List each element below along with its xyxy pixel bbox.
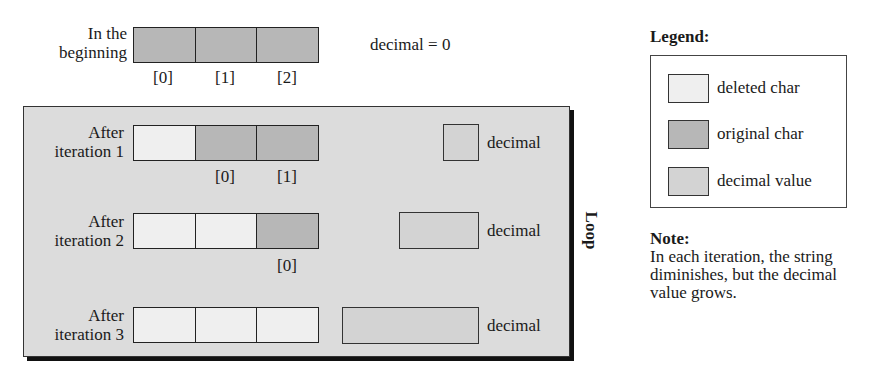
original-char-swatch: [668, 120, 709, 149]
iteration-label-line1: After: [24, 306, 124, 325]
initial-label-line1: In the: [40, 24, 127, 43]
original-char-cell: [134, 28, 195, 62]
deleted-char-cell: [134, 214, 195, 248]
iteration-label-line2: iteration 2: [24, 231, 124, 250]
legend-box: deleted char original char decimal value: [650, 55, 847, 208]
note-line: diminishes, but the decimal: [650, 266, 837, 284]
decimal-value-box: [342, 307, 479, 344]
iteration-1-label: After iteration 1: [24, 123, 124, 161]
iteration-3-string-array: [133, 307, 319, 343]
iteration-label-line1: After: [24, 123, 124, 142]
decimal-label: decimal: [487, 316, 541, 335]
deleted-char-cell: [134, 126, 195, 160]
deleted-char-cell: [195, 308, 257, 342]
note-body: In each iteration, the string diminishes…: [650, 248, 837, 302]
index-label: [2]: [267, 68, 307, 88]
iteration-label-line1: After: [24, 212, 124, 231]
iteration-label-line2: iteration 1: [24, 142, 124, 161]
decimal-value-box: [399, 212, 479, 249]
deleted-char-cell: [134, 308, 195, 342]
note-line: In each iteration, the string: [650, 248, 837, 266]
iteration-label-line2: iteration 3: [24, 325, 124, 344]
deleted-char-cell: [256, 308, 318, 342]
iteration-1-string-array: [133, 125, 319, 161]
decimal-label: decimal: [487, 221, 541, 240]
index-label: [1]: [205, 68, 245, 88]
iteration-2-string-array: [133, 213, 319, 249]
legend-item-label: decimal value: [717, 171, 812, 191]
note-title: Note:: [650, 229, 690, 248]
legend-item-label: deleted char: [717, 78, 800, 98]
initial-string-array: [133, 27, 319, 63]
decimal-label: decimal: [487, 133, 541, 152]
initial-decimal-text: decimal = 0: [370, 35, 450, 54]
legend-title: Legend:: [650, 27, 710, 46]
original-char-cell: [256, 126, 318, 160]
legend-item-label: original char: [717, 124, 803, 144]
initial-label: In the beginning: [40, 24, 127, 62]
note-line: value grows.: [650, 284, 837, 302]
original-char-cell: [256, 28, 318, 62]
index-label: [0]: [267, 256, 307, 276]
index-label: [0]: [205, 167, 245, 187]
iteration-2-label: After iteration 2: [24, 212, 124, 250]
original-char-cell: [195, 126, 257, 160]
decimal-value-box: [443, 124, 479, 161]
loop-label: Loop: [582, 211, 601, 251]
deleted-char-cell: [195, 214, 257, 248]
decimal-value-swatch: [668, 167, 709, 196]
iteration-3-label: After iteration 3: [24, 306, 124, 344]
index-label: [1]: [267, 167, 307, 187]
original-char-cell: [256, 214, 318, 248]
initial-label-line2: beginning: [40, 43, 127, 62]
original-char-cell: [195, 28, 257, 62]
deleted-char-swatch: [668, 74, 709, 103]
index-label: [0]: [143, 68, 183, 88]
